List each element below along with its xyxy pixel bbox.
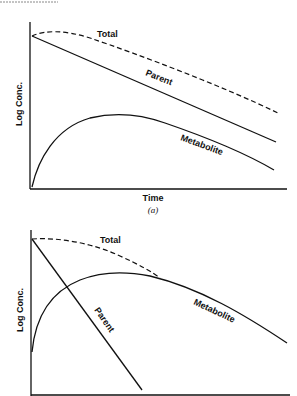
parent-line-a	[32, 36, 276, 142]
chart-a: Total Parent Metabolite Log Conc. Time (…	[14, 22, 287, 215]
label-parent-b: Parent	[92, 305, 116, 334]
metabolite-curve-b	[32, 273, 287, 352]
label-parent-a: Parent	[144, 68, 174, 88]
chart-b: Total Parent Metabolite Log Conc.	[15, 230, 290, 396]
label-total-b: Total	[100, 235, 121, 245]
label-metabolite-b: Metabolite	[192, 297, 237, 325]
label-total-a: Total	[97, 29, 118, 39]
total-curve-b	[32, 239, 160, 278]
x-axis-label-a: Time	[143, 193, 164, 203]
panel-caption-a: (a)	[148, 205, 159, 215]
parent-line-b	[32, 239, 142, 390]
y-axis-label-b: Log Conc.	[15, 288, 25, 332]
figure: Total Parent Metabolite Log Conc. Time (…	[0, 0, 297, 396]
y-axis-label-a: Log Conc.	[14, 82, 24, 126]
